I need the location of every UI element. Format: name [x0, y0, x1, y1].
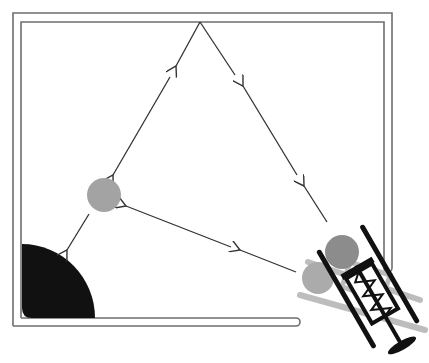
arrow-apex-down-2 — [113, 77, 170, 175]
plunger-handle — [386, 334, 418, 358]
trajectory-arrows — [67, 22, 327, 272]
line-to-apex — [200, 22, 235, 75]
corner-bumper — [22, 244, 95, 318]
arrow-direct-1 — [240, 250, 296, 272]
arrow-launch-up-1 — [304, 186, 327, 222]
target-ball — [87, 178, 121, 212]
launched-ball — [325, 235, 359, 269]
arrow-launch-up-2 — [243, 86, 297, 175]
pinball-diagram — [0, 0, 429, 363]
bottom-wall — [13, 318, 300, 326]
diagram-canvas — [0, 0, 429, 363]
arrow-apex-down-1 — [176, 22, 200, 66]
arrow-direct-2 — [126, 206, 231, 247]
arrow-ball-to-bumper — [67, 214, 89, 250]
